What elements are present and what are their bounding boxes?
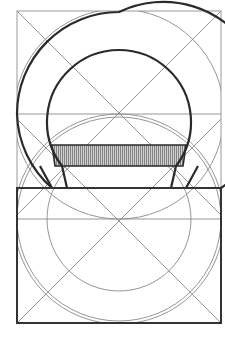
construction-diagram — [0, 0, 225, 339]
outer-frame — [17, 11, 221, 323]
hatched-band — [52, 145, 186, 166]
